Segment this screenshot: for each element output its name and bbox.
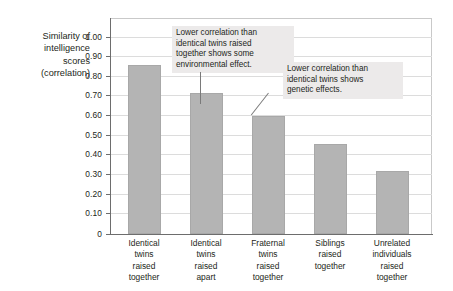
annotation-2-line-3: genetic effects.: [287, 85, 399, 96]
xcat-5-line-3: raised: [356, 261, 428, 272]
ytick-mark-0-60: [106, 115, 110, 116]
ytick-mark-0-80: [106, 76, 110, 77]
annotation-1-line-4: environmental effect.: [176, 60, 290, 71]
ytick-mark-0-20: [106, 194, 110, 195]
annotation-1-leader-line: [200, 72, 201, 104]
ytick-label-0-90: 0.90: [68, 51, 102, 61]
y-axis-line: [110, 18, 111, 235]
ytick-label-0-10: 0.10: [68, 208, 102, 218]
xcat-3-line-4: together: [232, 272, 304, 283]
annotation-2-line-2: identical twins shows: [287, 75, 399, 86]
xcat-label-unrelated-individuals-raised-together: Unrelated individuals raised together: [356, 238, 428, 284]
ytick-mark-0-30: [106, 174, 110, 175]
ytick-mark-0-40: [106, 154, 110, 155]
bar-unrelated-individuals-raised-together: [376, 171, 409, 234]
ytick-mark-0-10: [106, 213, 110, 214]
bar-fraternal-twins-raised-together: [252, 116, 285, 234]
ytick-label-1-00: 1.00: [68, 32, 102, 42]
ytick-mark-0-90: [106, 56, 110, 57]
xcat-5-line-1: Unrelated: [356, 238, 428, 249]
ytick-label-0-80: 0.80: [68, 71, 102, 81]
ytick-label-0-30: 0.30: [68, 169, 102, 179]
bar-siblings-raised-together: [314, 144, 347, 234]
x-axis-line: [110, 234, 433, 235]
annotation-environmental-effect: Lower correlation than identical twins r…: [172, 26, 294, 73]
annotation-genetic-effects: Lower correlation than identical twins s…: [283, 62, 403, 99]
ytick-mark-0-70: [106, 95, 110, 96]
annotation-2-line-1: Lower correlation than: [287, 64, 399, 75]
bar-identical-twins-raised-apart: [190, 93, 223, 234]
ytick-label-0-50: 0.50: [68, 130, 102, 140]
annotation-1-line-3: together shows some: [176, 49, 290, 60]
ytick-label-0-40: 0.40: [68, 149, 102, 159]
xcat-5-line-2: individuals: [356, 249, 428, 260]
annotation-1-line-1: Lower correlation than: [176, 28, 290, 39]
bar-identical-twins-raised-together: [128, 65, 161, 234]
ytick-label-0-20: 0.20: [68, 189, 102, 199]
ytick-label-0: 0: [68, 229, 102, 239]
ytick-mark-0-50: [106, 135, 110, 136]
ytick-mark-1-00: [106, 37, 110, 38]
annotation-1-line-2: identical twins raised: [176, 39, 290, 50]
ytick-mark-0: [106, 234, 110, 235]
ytick-label-0-70: 0.70: [68, 90, 102, 100]
bar-chart-figure: Similarity of intelligence scores (corre…: [0, 0, 453, 291]
ytick-label-0-60: 0.60: [68, 110, 102, 120]
xcat-5-line-4: together: [356, 272, 428, 283]
